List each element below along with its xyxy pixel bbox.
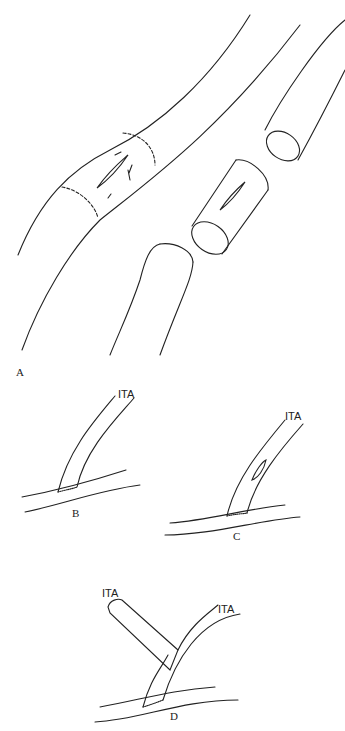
- panel-a-vessel: [18, 15, 300, 350]
- panel-c-ita-label: ITA: [285, 410, 301, 422]
- panel-d-ita-label-left: ITA: [102, 587, 118, 599]
- panel-b-label: B: [72, 507, 79, 519]
- surgical-illustration: [0, 0, 345, 731]
- panel-d-ita-label-right: ITA: [218, 603, 234, 615]
- panel-a-graft-segment: [110, 20, 345, 355]
- panel-c-anastomosis: [165, 420, 303, 535]
- panel-a-label: A: [16, 366, 24, 378]
- panel-d-label: D: [170, 710, 178, 722]
- panel-b-ita-label: ITA: [118, 388, 134, 400]
- panel-c-label: C: [233, 530, 240, 542]
- panel-d-y-graft: [95, 599, 240, 722]
- panel-b-anastomosis: [22, 396, 140, 512]
